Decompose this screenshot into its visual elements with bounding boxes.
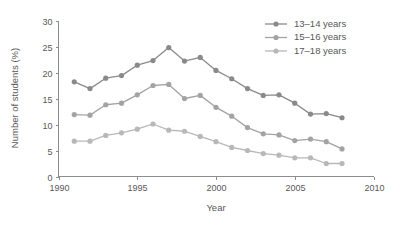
x-tick-label: 2010 bbox=[364, 183, 384, 193]
y-tick-label: 30 bbox=[42, 17, 52, 27]
data-point bbox=[324, 139, 329, 144]
data-point bbox=[245, 125, 250, 130]
legend-label: 15–16 years bbox=[294, 31, 347, 42]
legend-item-1[interactable]: 13–14 years bbox=[265, 18, 347, 29]
data-point bbox=[87, 113, 92, 118]
data-point bbox=[182, 129, 187, 134]
data-point bbox=[72, 79, 77, 84]
data-point bbox=[292, 138, 297, 143]
data-point bbox=[103, 102, 108, 107]
data-point bbox=[229, 76, 234, 81]
y-tick-label: 0 bbox=[47, 173, 52, 183]
y-tick-label: 10 bbox=[42, 121, 52, 131]
series-line-1 bbox=[74, 48, 342, 118]
y-tick-label: 15 bbox=[42, 95, 52, 105]
data-point bbox=[150, 121, 155, 126]
data-point bbox=[339, 161, 344, 166]
data-point bbox=[213, 105, 218, 110]
data-point bbox=[198, 55, 203, 60]
data-point bbox=[119, 130, 124, 135]
data-point bbox=[229, 145, 234, 150]
data-point bbox=[276, 92, 281, 97]
legend-item-3[interactable]: 17–18 years bbox=[265, 45, 347, 56]
data-point bbox=[292, 101, 297, 106]
data-point bbox=[166, 45, 171, 50]
data-series-group bbox=[72, 45, 345, 166]
data-point bbox=[72, 112, 77, 117]
data-point bbox=[213, 68, 218, 73]
data-point bbox=[324, 161, 329, 166]
data-point bbox=[276, 132, 281, 137]
data-point bbox=[213, 139, 218, 144]
data-point bbox=[166, 82, 171, 87]
legend-label: 17–18 years bbox=[294, 45, 347, 56]
data-point bbox=[135, 92, 140, 97]
y-axis-ticks: 051015202530 bbox=[42, 17, 58, 183]
legend-item-2[interactable]: 15–16 years bbox=[265, 31, 347, 42]
data-point bbox=[150, 83, 155, 88]
data-point bbox=[72, 139, 77, 144]
data-point bbox=[87, 139, 92, 144]
data-point bbox=[135, 63, 140, 68]
x-tick-label: 2005 bbox=[285, 183, 305, 193]
y-tick-label: 20 bbox=[42, 69, 52, 79]
data-point bbox=[229, 114, 234, 119]
x-axis-ticks: 19901995200020052010 bbox=[49, 177, 384, 193]
data-point bbox=[198, 134, 203, 139]
data-point bbox=[103, 133, 108, 138]
legend-swatch-marker bbox=[273, 35, 278, 40]
data-point bbox=[182, 96, 187, 101]
data-point bbox=[245, 86, 250, 91]
series-2 bbox=[72, 82, 345, 152]
line-chart: 051015202530 19901995200020052010 Number… bbox=[0, 0, 405, 226]
data-point bbox=[261, 131, 266, 136]
data-point bbox=[308, 155, 313, 160]
chart-legend: 13–14 years15–16 years17–18 years bbox=[265, 18, 347, 56]
legend-swatch-marker bbox=[273, 48, 278, 53]
y-axis-title: Number of students (%) bbox=[9, 48, 20, 148]
data-point bbox=[135, 127, 140, 132]
x-axis-title: Year bbox=[206, 202, 225, 213]
data-point bbox=[292, 155, 297, 160]
data-point bbox=[87, 86, 92, 91]
data-point bbox=[261, 151, 266, 156]
x-tick-label: 2000 bbox=[206, 183, 226, 193]
data-point bbox=[261, 93, 266, 98]
data-point bbox=[198, 93, 203, 98]
data-point bbox=[339, 115, 344, 120]
legend-swatch-marker bbox=[273, 21, 278, 26]
series-line-3 bbox=[74, 124, 342, 164]
x-tick-label: 1990 bbox=[49, 183, 69, 193]
y-tick-label: 5 bbox=[47, 147, 52, 157]
data-point bbox=[119, 101, 124, 106]
data-point bbox=[308, 112, 313, 117]
data-point bbox=[150, 58, 155, 63]
data-point bbox=[182, 58, 187, 63]
data-point bbox=[103, 76, 108, 81]
series-3 bbox=[72, 121, 345, 166]
x-tick-label: 1995 bbox=[127, 183, 147, 193]
data-point bbox=[276, 153, 281, 158]
series-1 bbox=[72, 45, 345, 120]
data-point bbox=[324, 111, 329, 116]
y-tick-label: 25 bbox=[42, 43, 52, 53]
legend-label: 13–14 years bbox=[294, 18, 347, 29]
chart-container: 051015202530 19901995200020052010 Number… bbox=[0, 0, 405, 226]
data-point bbox=[245, 148, 250, 153]
data-point bbox=[166, 128, 171, 133]
data-point bbox=[119, 73, 124, 78]
data-point bbox=[339, 146, 344, 151]
data-point bbox=[308, 136, 313, 141]
